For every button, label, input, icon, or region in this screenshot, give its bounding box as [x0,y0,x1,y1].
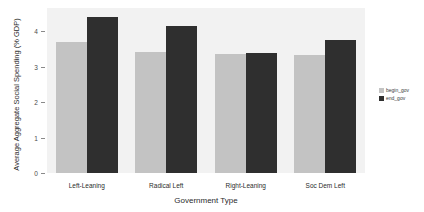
x-tick-label: Left-Leaning [69,182,105,189]
y-tick-mark [41,67,45,68]
x-tick-label: Soc Dem Left [306,182,345,189]
legend-swatch [379,88,384,93]
bar-end_gov [246,53,277,173]
legend-item: begin_gov [379,87,423,94]
legend-item: end_gov [379,95,423,102]
y-tick-label: 1 [34,134,38,141]
chart-legend: begin_govend_gov [379,87,423,103]
legend-label: end_gov [386,95,405,102]
chart-figure: Average Aggregate Social Spending (% GDP… [0,0,424,212]
y-tick-mark [41,102,45,103]
plot-area [47,8,365,173]
bar-begin_gov [215,54,246,173]
bar-group [47,8,127,173]
y-tick-label: 2 [34,99,38,106]
bar-group [206,8,286,173]
y-tick-mark [41,173,45,174]
bar-group [127,8,207,173]
legend-swatch [379,96,384,101]
y-tick-label: 0 [34,170,38,177]
y-tick-mark [41,138,45,139]
bar-end_gov [325,40,356,173]
bar-begin_gov [56,42,87,173]
x-axis-title: Government Type [47,196,365,205]
legend-label: begin_gov [386,87,409,94]
bar-end_gov [87,17,118,173]
x-axis: Government Type Left-LeaningRadical Left… [47,173,365,212]
y-axis-title: Average Aggregate Social Spending (% GDP… [12,15,21,175]
y-tick-mark [41,31,45,32]
y-tick-label: 3 [34,63,38,70]
y-axis: Average Aggregate Social Spending (% GDP… [0,8,47,173]
bar-end_gov [166,26,197,173]
x-tick-label: Right-Leaning [226,182,266,189]
y-tick-label: 4 [34,28,38,35]
bar-begin_gov [294,55,325,173]
bars-layer [47,8,365,173]
x-tick-label: Radical Left [149,182,183,189]
bar-group [286,8,366,173]
bar-begin_gov [135,52,166,173]
